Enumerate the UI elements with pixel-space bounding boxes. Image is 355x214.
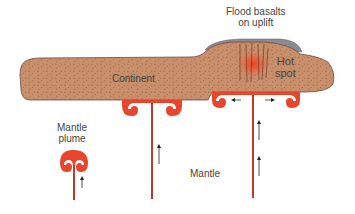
hot-spot-line2: spot	[275, 67, 296, 79]
flood-basalts-line2: on uplift	[226, 17, 285, 28]
hot-spot-glow	[237, 51, 269, 77]
mantle-plume-line1: Mantle	[57, 122, 87, 133]
flattened-plume-head	[212, 92, 300, 108]
hot-spot-label: Hot spot	[275, 55, 296, 79]
mantle-label: Mantle	[190, 168, 220, 179]
mantle-plume-line2: plume	[57, 133, 87, 144]
mantle-plume-label: Mantle plume	[57, 122, 87, 144]
hot-spot-line1: Hot	[275, 55, 296, 67]
flood-basalts-label: Flood basalts on uplift	[226, 6, 285, 28]
flood-basalts-line1: Flood basalts	[226, 6, 285, 17]
mantle-plume-diagram	[0, 0, 355, 214]
continent-label: Continent	[112, 73, 155, 84]
